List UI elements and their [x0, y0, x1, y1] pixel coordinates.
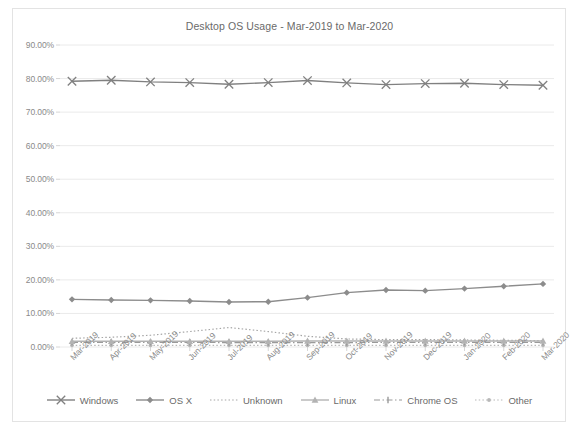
data-point-marker — [265, 299, 271, 305]
legend-label: Windows — [80, 395, 119, 406]
legend-swatch — [135, 394, 165, 406]
legend-item-os-x[interactable]: OS X — [135, 394, 192, 406]
data-point-marker — [422, 287, 428, 293]
data-point-marker — [501, 283, 507, 289]
chart-legend: WindowsOS XUnknownLinuxChrome OSOther — [12, 394, 566, 406]
legend-item-windows[interactable]: Windows — [46, 394, 119, 406]
legend-label: OS X — [169, 395, 192, 406]
legend-item-other[interactable]: Other — [474, 394, 532, 406]
legend-item-linux[interactable]: Linux — [300, 394, 357, 406]
data-point-marker — [383, 287, 389, 293]
legend-item-chrome-os[interactable]: Chrome OS — [373, 394, 457, 406]
data-point-marker — [344, 289, 350, 295]
data-point-marker — [108, 297, 114, 303]
legend-swatch — [209, 394, 239, 406]
data-point-marker — [540, 281, 546, 287]
plot-area — [0, 0, 579, 431]
series-os-x — [69, 281, 546, 306]
data-point-marker — [147, 297, 153, 303]
legend-swatch — [300, 394, 330, 406]
data-point-marker — [147, 397, 153, 403]
legend-label: Chrome OS — [407, 395, 457, 406]
legend-label: Other — [508, 395, 532, 406]
data-point-marker — [488, 398, 492, 402]
chart-container: Desktop OS Usage - Mar-2019 to Mar-2020 … — [0, 0, 579, 431]
legend-item-unknown[interactable]: Unknown — [209, 394, 283, 406]
data-point-marker — [304, 294, 310, 300]
data-point-marker — [187, 298, 193, 304]
data-point-marker — [69, 296, 75, 302]
data-point-marker — [461, 285, 467, 291]
legend-swatch — [373, 394, 403, 406]
series-windows — [68, 76, 547, 89]
legend-swatch — [474, 394, 504, 406]
legend-label: Unknown — [243, 395, 283, 406]
data-point-marker — [226, 299, 232, 305]
legend-label: Linux — [334, 395, 357, 406]
legend-swatch — [46, 394, 76, 406]
